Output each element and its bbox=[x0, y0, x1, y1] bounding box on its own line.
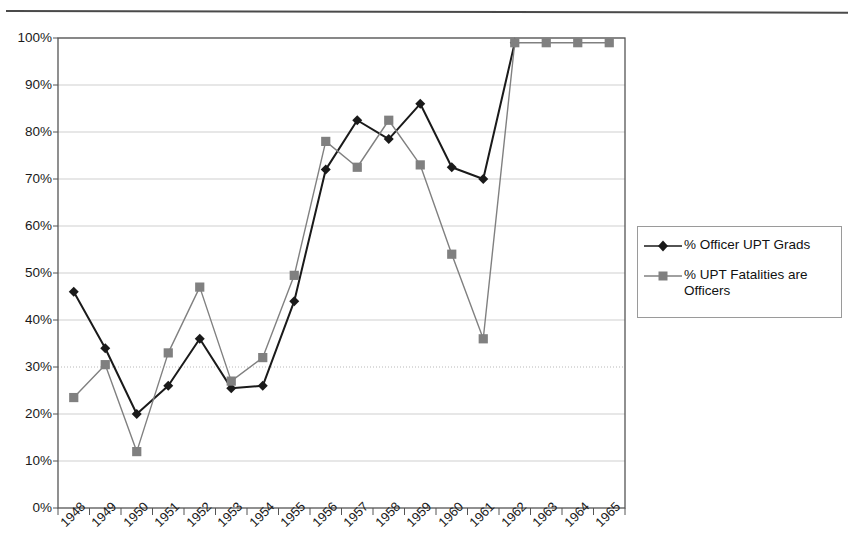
y-axis-tick-labels: 0%10%20%30%40%50%60%70%80%90%100% bbox=[0, 14, 52, 559]
data-point-marker[interactable] bbox=[321, 165, 331, 175]
data-point-marker[interactable] bbox=[321, 137, 330, 146]
data-point-marker[interactable] bbox=[195, 283, 204, 292]
data-point-marker[interactable] bbox=[289, 296, 299, 306]
data-point-marker[interactable] bbox=[384, 116, 393, 125]
data-point-marker[interactable] bbox=[605, 38, 614, 47]
data-point-marker[interactable] bbox=[132, 447, 141, 456]
y-axis-tick-label: 90% bbox=[6, 78, 52, 92]
legend-key-square bbox=[644, 269, 682, 283]
data-point-marker[interactable] bbox=[290, 271, 299, 280]
series-line-2 bbox=[74, 43, 610, 452]
legend-item-officer-upt-grads[interactable]: % Officer UPT Grads bbox=[644, 237, 835, 253]
data-point-marker[interactable] bbox=[69, 287, 79, 297]
data-point-marker[interactable] bbox=[101, 360, 110, 369]
series-line-1 bbox=[74, 43, 515, 414]
chart-page: 0%10%20%30%40%50%60%70%80%90%100% 194819… bbox=[0, 0, 854, 559]
data-point-marker[interactable] bbox=[352, 115, 362, 125]
data-point-marker[interactable] bbox=[479, 334, 488, 343]
legend-label-upt-fatalities-officers: % UPT Fatalities are Officers bbox=[682, 267, 835, 299]
y-axis-tick-label: 10% bbox=[6, 454, 52, 468]
data-point-marker[interactable] bbox=[353, 163, 362, 172]
y-axis-tick-label: 30% bbox=[6, 360, 52, 374]
data-point-marker[interactable] bbox=[573, 38, 582, 47]
y-axis-tick-label: 40% bbox=[6, 313, 52, 327]
data-point-marker[interactable] bbox=[69, 393, 78, 402]
data-point-marker[interactable] bbox=[164, 348, 173, 357]
data-point-marker[interactable] bbox=[227, 377, 236, 386]
data-point-marker[interactable] bbox=[416, 160, 425, 169]
data-point-marker[interactable] bbox=[258, 381, 268, 391]
legend-key-diamond bbox=[644, 239, 682, 253]
y-axis-tick-label: 70% bbox=[6, 172, 52, 186]
data-point-marker[interactable] bbox=[542, 38, 551, 47]
chart-legend: % Officer UPT Grads % UPT Fatalities are… bbox=[637, 226, 842, 318]
legend-item-upt-fatalities-officers[interactable]: % UPT Fatalities are Officers bbox=[644, 267, 835, 299]
legend-label-officer-upt-grads: % Officer UPT Grads bbox=[682, 237, 810, 253]
y-axis-tick-label: 100% bbox=[6, 31, 52, 45]
y-axis-tick-label: 0% bbox=[6, 501, 52, 515]
y-axis-tick-label: 60% bbox=[6, 219, 52, 233]
line-chart: 0%10%20%30%40%50%60%70%80%90%100% 194819… bbox=[0, 14, 854, 559]
data-point-marker[interactable] bbox=[447, 162, 457, 172]
y-axis-tick-label: 20% bbox=[6, 407, 52, 421]
data-point-marker[interactable] bbox=[510, 38, 519, 47]
y-axis-tick-label: 80% bbox=[6, 125, 52, 139]
data-point-marker[interactable] bbox=[258, 353, 267, 362]
y-axis-tick-label: 50% bbox=[6, 266, 52, 280]
data-point-marker[interactable] bbox=[478, 174, 488, 184]
data-point-marker[interactable] bbox=[100, 343, 110, 353]
data-point-marker[interactable] bbox=[447, 250, 456, 259]
